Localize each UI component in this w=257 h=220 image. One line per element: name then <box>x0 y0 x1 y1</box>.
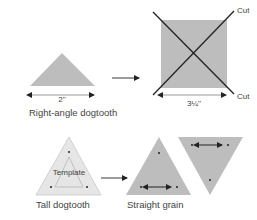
grain-dot-inv-left <box>191 144 193 146</box>
template-dot-left <box>50 186 52 188</box>
straight-grain-triangle-down <box>178 137 243 195</box>
straight-grain-triangle-up <box>126 137 191 195</box>
grain-dot-left <box>140 186 142 188</box>
template-label: Template <box>53 168 86 177</box>
dimension-label-2in: 2'' <box>58 95 66 104</box>
template-dot-top <box>68 151 70 153</box>
template-dot-right <box>86 186 88 188</box>
grain-dot-top <box>158 152 160 154</box>
template-triangle <box>36 137 101 195</box>
caption-tall-dogtooth: Tall dogtooth <box>36 199 90 210</box>
cut-label-bottom: Cut <box>237 92 250 101</box>
cut-label-top: Cut <box>237 6 250 15</box>
grain-dot-inv-bottom <box>209 179 211 181</box>
dogtooth-diagram: 2'' Right-angle dogtooth Cut Cut 3¼'' Te… <box>0 0 257 220</box>
right-angle-triangle <box>30 53 95 86</box>
dimension-label-3-25in: 3¼'' <box>187 99 202 108</box>
grain-dot-right <box>176 186 178 188</box>
caption-right-angle-dogtooth: Right-angle dogtooth <box>29 107 117 118</box>
grain-dot-inv-right <box>227 144 229 146</box>
caption-straight-grain: Straight grain <box>127 199 184 210</box>
